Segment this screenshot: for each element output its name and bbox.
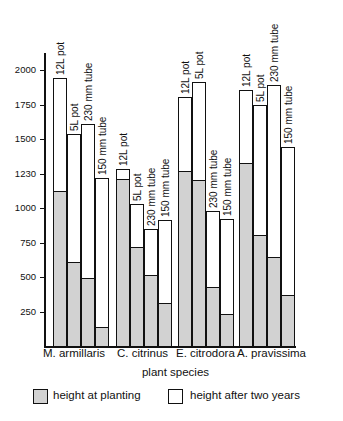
container-label: 150 mm tube	[283, 86, 294, 144]
container-label: 12L pot	[55, 42, 66, 75]
bar-height-at-planting	[145, 275, 157, 346]
y-tick	[40, 312, 45, 313]
bar-height-at-planting	[131, 247, 143, 346]
bar-after-two-years	[158, 220, 172, 347]
container-label: 12L pot	[180, 61, 191, 94]
container-label: 12L pot	[118, 133, 129, 166]
bar-height-at-planting	[193, 180, 205, 346]
category-label: A. pravissima	[237, 347, 306, 359]
bar-height-at-planting	[159, 303, 171, 346]
container-label: 12L pot	[241, 54, 252, 87]
y-tick-label: 2000	[15, 65, 36, 75]
container-label: 5L pot	[255, 75, 266, 102]
bar-height-at-planting	[221, 314, 233, 346]
container-label: 230 mm tube	[269, 24, 280, 82]
category-label: E. citrodora	[176, 347, 235, 359]
x-axis-title: plant species	[0, 366, 343, 378]
bar-after-two-years	[267, 85, 281, 347]
bar-after-two-years	[67, 134, 81, 347]
y-tick-label: 250	[20, 307, 36, 317]
bar-height-at-planting	[68, 262, 80, 346]
bar-height-at-planting	[254, 235, 266, 346]
y-tick-label: 1750	[15, 100, 36, 110]
y-tick	[40, 277, 45, 278]
bar-height-at-planting	[179, 171, 191, 346]
bar-after-two-years	[239, 90, 253, 347]
bar-height-at-planting	[207, 287, 219, 346]
bar-after-two-years	[144, 229, 158, 347]
bar-after-two-years	[130, 204, 144, 347]
legend-label-after: height after two years	[190, 389, 300, 401]
bar-after-two-years	[192, 82, 206, 347]
bar-chart: 20001750150012301000750500250 12L pot5L …	[0, 0, 343, 421]
bar-after-two-years	[220, 219, 234, 347]
y-tick	[40, 243, 45, 244]
y-tick	[40, 174, 45, 175]
container-label: 230 mm tube	[83, 62, 94, 120]
y-tick	[40, 105, 45, 106]
container-label: 150 mm tube	[97, 117, 108, 175]
bar-height-at-planting	[82, 278, 94, 346]
bar-height-at-planting	[268, 257, 280, 346]
bar-height-at-planting	[282, 295, 294, 346]
container-label: 230 mm tube	[208, 149, 219, 207]
container-label: 150 mm tube	[160, 159, 171, 217]
y-axis-line	[44, 53, 46, 347]
y-tick-label: 1000	[15, 203, 36, 213]
bar-after-two-years	[281, 147, 295, 347]
container-label: 5L pot	[194, 52, 205, 79]
bar-after-two-years	[206, 211, 220, 347]
container-label: 230 mm tube	[146, 167, 157, 225]
bar-height-at-planting	[54, 191, 66, 346]
bar-after-two-years	[253, 105, 267, 347]
bar-height-at-planting	[96, 327, 108, 346]
y-tick-label: 750	[20, 238, 36, 248]
bar-height-at-planting	[240, 163, 252, 346]
bar-after-two-years	[178, 97, 192, 347]
white-swatch-icon	[168, 389, 183, 404]
stippled-swatch-icon	[33, 389, 48, 404]
bar-after-two-years	[81, 124, 95, 347]
y-tick-label: 500	[20, 272, 36, 282]
bar-after-two-years	[116, 169, 130, 347]
y-tick	[40, 208, 45, 209]
bar-after-two-years	[95, 178, 109, 347]
bar-after-two-years	[53, 78, 67, 347]
y-tick-label: 1500	[15, 134, 36, 144]
y-tick	[40, 139, 45, 140]
y-tick-label: 1230	[15, 169, 36, 179]
y-tick	[40, 70, 45, 71]
category-label: C. citrinus	[117, 347, 168, 359]
bar-height-at-planting	[117, 179, 129, 346]
container-label: 150 mm tube	[222, 158, 233, 216]
container-label: 5L pot	[69, 104, 80, 131]
category-label: M. armillaris	[43, 347, 105, 359]
container-label: 5L pot	[132, 173, 143, 200]
legend-label-planting: height at planting	[53, 389, 141, 401]
